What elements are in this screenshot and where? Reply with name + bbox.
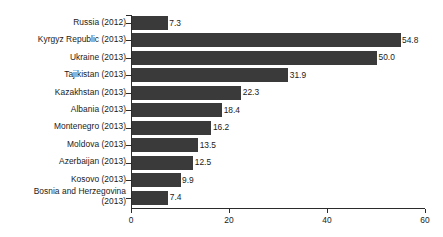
y-axis-tick <box>126 93 131 94</box>
bar <box>132 121 211 135</box>
category-label: Montenegro (2013) <box>0 122 126 132</box>
bar-value-label: 50.0 <box>379 52 395 62</box>
category-label: Tajikistan (2013) <box>0 70 126 80</box>
x-axis-tick <box>425 209 426 213</box>
category-label: Ukraine (2013) <box>0 53 126 63</box>
bar-value-label: 12.5 <box>195 157 211 167</box>
bar-value-label: 31.9 <box>290 70 306 80</box>
bar-value-label: 16.2 <box>213 122 229 132</box>
category-label: Moldova (2013) <box>0 140 126 150</box>
bar <box>132 191 168 205</box>
category-label: Kyrgyz Republic (2013) <box>0 35 126 45</box>
y-axis-tick <box>126 58 131 59</box>
category-label: Bosnia and Herzegovina (2013) <box>0 187 126 206</box>
x-axis-tick-label: 40 <box>322 215 331 225</box>
x-axis-tick <box>327 209 328 213</box>
bar-chart: Russia (2012)Kyrgyz Republic (2013)Ukrai… <box>0 0 443 237</box>
bar <box>132 103 222 117</box>
y-axis-tick <box>126 145 131 146</box>
bar-value-label: 13.5 <box>200 140 216 150</box>
bar-value-label: 9.9 <box>182 175 194 185</box>
x-axis-tick <box>229 209 230 213</box>
x-axis-tick-label: 60 <box>420 215 429 225</box>
bar-value-label: 7.4 <box>170 192 182 202</box>
bar-value-label: 18.4 <box>224 105 240 115</box>
bar <box>132 173 181 187</box>
x-axis-tick <box>131 209 132 213</box>
x-axis-line <box>131 208 425 209</box>
x-axis-tick-label: 20 <box>224 215 233 225</box>
y-axis-tick <box>126 163 131 164</box>
bar-value-label: 54.8 <box>402 35 418 45</box>
x-axis-tick-label: 0 <box>129 215 134 225</box>
category-label: Kazakhstan (2013) <box>0 88 126 98</box>
bar <box>132 156 193 170</box>
y-axis-tick <box>126 180 131 181</box>
bar <box>132 51 377 65</box>
y-axis-tick <box>126 75 131 76</box>
y-axis-tick <box>126 198 131 199</box>
category-label: Kosovo (2013) <box>0 175 126 185</box>
category-axis-labels: Russia (2012)Kyrgyz Republic (2013)Ukrai… <box>0 0 126 237</box>
bar-value-label: 7.3 <box>169 18 181 28</box>
bar <box>132 16 168 30</box>
y-axis-tick <box>126 110 131 111</box>
y-axis-tick <box>126 23 131 24</box>
bar <box>132 86 241 100</box>
category-label: Russia (2012) <box>0 18 126 28</box>
category-label: Albania (2013) <box>0 105 126 115</box>
y-axis-tick <box>126 40 131 41</box>
bar-value-label: 22.3 <box>243 87 259 97</box>
bar <box>132 68 288 82</box>
y-axis-top-cap-tick <box>126 15 131 16</box>
y-axis-tick <box>126 128 131 129</box>
bar <box>132 138 198 152</box>
category-label: Azerbaijan (2013) <box>0 157 126 167</box>
bar <box>132 33 401 47</box>
